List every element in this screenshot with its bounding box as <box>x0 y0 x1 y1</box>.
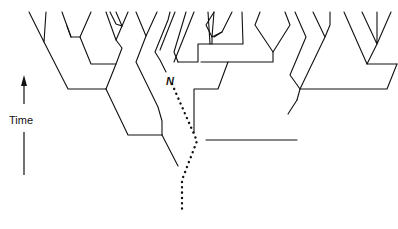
lineage-n <box>172 84 197 212</box>
node-n-label: N <box>166 75 174 87</box>
time-axis-label: Time <box>9 113 33 127</box>
gene-tree-diagram <box>0 0 398 229</box>
arrow-up-icon <box>21 75 27 86</box>
middle-clade <box>136 12 243 135</box>
right-clade <box>288 12 397 114</box>
left-clade <box>29 12 178 166</box>
